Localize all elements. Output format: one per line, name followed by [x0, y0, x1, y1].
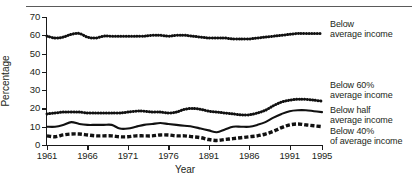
x-tick-label: 1891 [199, 151, 219, 161]
y-tick-label: 50 [30, 49, 40, 59]
y-tick-label: 20 [30, 104, 40, 114]
x-axis-title: Year [175, 164, 195, 175]
x-tick-label: 1966 [77, 151, 97, 161]
y-tick-label: 10 [30, 122, 40, 132]
y-tick-label: 60 [30, 31, 40, 41]
legend-label-line1: Below 60% [330, 80, 393, 90]
x-tick-label: 1976 [158, 151, 178, 161]
x-tick-label: 1971 [118, 151, 138, 161]
legend-label-line2: average income [330, 29, 393, 39]
legend-item-below-half-average-income: Below half average income [330, 105, 393, 125]
legend-item-below-average-income: Below average income [330, 19, 393, 39]
y-tick-label: 40 [30, 67, 40, 77]
legend-label-line1: Below half [330, 105, 393, 115]
y-axis-title: Percentage [0, 55, 11, 106]
legend-item-below-40-percent-average-income: Below 40% of average income [330, 126, 402, 146]
legend-label-line1: Below 40% [330, 126, 402, 136]
legend-label-line2: average income [330, 90, 393, 100]
x-tick-label: 1986 [239, 151, 259, 161]
y-tick-label: 70 [30, 12, 40, 22]
chart-figure: Percentage Year 010203040506070 19611966… [0, 0, 418, 184]
plot-area: 010203040506070 196119661971197618911986… [47, 17, 322, 145]
series-lines [47, 17, 322, 145]
legend-item-below-60-percent-average-income: Below 60% average income [330, 80, 393, 100]
series-line-0 [47, 33, 322, 39]
x-tick-label: 1961 [37, 151, 57, 161]
series-line-1 [47, 99, 322, 115]
legend-label-line2: average income [330, 115, 393, 125]
legend-label-line1: Below [330, 19, 393, 29]
x-tick-label: 1991 [279, 151, 299, 161]
legend-label-line2: of average income [330, 136, 402, 146]
y-tick-label: 0 [35, 140, 40, 150]
y-tick-label: 30 [30, 85, 40, 95]
chart-legend: Below average income Below 60% average i… [330, 0, 418, 184]
